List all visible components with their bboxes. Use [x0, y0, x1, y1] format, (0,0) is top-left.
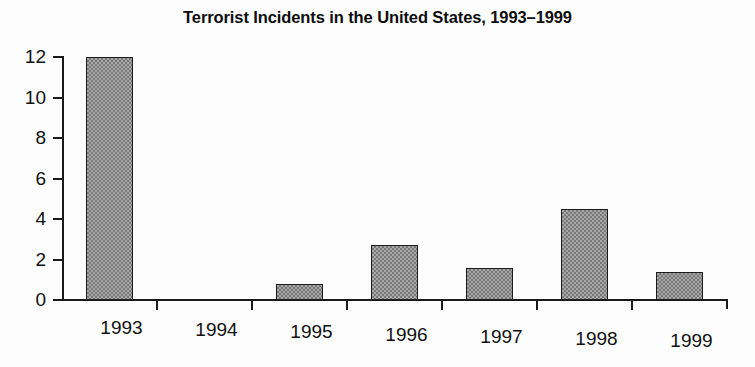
x-axis-label: 1996 [357, 325, 457, 344]
y-axis-label: 2 [0, 250, 46, 269]
x-axis-label: 1993 [72, 318, 172, 337]
y-axis-label: 12 [0, 47, 46, 66]
bar [371, 245, 419, 300]
x-axis-tick [536, 300, 538, 310]
y-axis-label: 8 [0, 128, 46, 147]
y-axis-tick [53, 97, 62, 99]
bar [276, 284, 324, 300]
x-axis-tick [631, 300, 633, 310]
x-axis-label: 1998 [547, 329, 647, 348]
x-axis-label: 1999 [642, 331, 742, 350]
y-axis-label: 4 [0, 209, 46, 228]
y-axis-label: 0 [0, 290, 46, 309]
plot-area [62, 57, 727, 300]
x-axis-end-cap [726, 299, 728, 309]
y-axis-tick [53, 299, 62, 301]
y-axis-label: 6 [0, 169, 46, 188]
bar [561, 209, 609, 300]
x-axis-label: 1995 [262, 322, 362, 341]
y-axis-label: 10 [0, 88, 46, 107]
y-axis-tick [53, 178, 62, 180]
chart-title: Terrorist Incidents in the United States… [0, 8, 755, 27]
bar [466, 268, 514, 300]
x-axis-label: 1997 [452, 327, 552, 346]
bar [86, 57, 134, 300]
y-axis-tick [53, 218, 62, 220]
x-axis-tick [251, 300, 253, 310]
y-axis-tick [53, 259, 62, 261]
y-axis-tick [53, 56, 62, 58]
x-axis-tick [346, 300, 348, 310]
bar [656, 272, 704, 300]
x-axis-tick [441, 300, 443, 310]
x-axis-label: 1994 [167, 320, 267, 339]
y-axis-tick [53, 137, 62, 139]
chart-figure: Terrorist Incidents in the United States… [0, 0, 755, 367]
x-axis-tick [156, 300, 158, 310]
